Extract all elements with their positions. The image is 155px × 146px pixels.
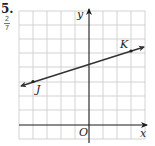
grid (19, 11, 145, 139)
point-k (129, 49, 132, 52)
point-k-label: K (119, 38, 129, 51)
x-axis-label: x (140, 127, 147, 140)
origin-label: O (79, 126, 88, 139)
point-j (31, 80, 34, 83)
coordinate-graph: y x O J K (0, 0, 155, 146)
y-axis-label: y (76, 8, 84, 21)
point-j-label: J (34, 83, 41, 96)
